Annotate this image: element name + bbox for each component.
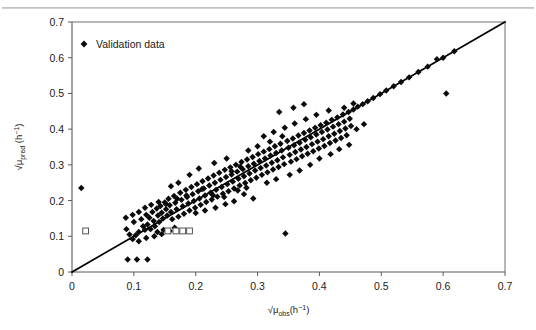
x-axis-title: √μobs(h−1) xyxy=(268,304,310,317)
data-point xyxy=(136,238,142,244)
data-point xyxy=(253,174,259,180)
data-point xyxy=(222,201,228,207)
data-point xyxy=(287,152,293,158)
data-point xyxy=(281,161,287,167)
data-point xyxy=(255,151,261,157)
data-point xyxy=(173,206,179,212)
data-point xyxy=(249,154,255,160)
data-point xyxy=(275,164,281,170)
data-point xyxy=(316,155,322,161)
data-point xyxy=(149,209,155,215)
data-point xyxy=(144,256,150,262)
data-point xyxy=(443,90,449,96)
data-point xyxy=(313,112,319,118)
data-point xyxy=(330,123,336,129)
data-point xyxy=(245,147,251,153)
data-point xyxy=(314,138,320,144)
x-tick-label: 0 xyxy=(69,280,75,292)
data-point xyxy=(243,184,249,190)
data-point xyxy=(250,195,256,201)
data-point xyxy=(310,148,316,154)
y-axis-title: √μpred (h−1) xyxy=(13,124,27,171)
data-point xyxy=(202,207,208,213)
data-point xyxy=(192,204,198,210)
data-point xyxy=(290,104,296,110)
data-point xyxy=(272,143,278,149)
data-point xyxy=(183,187,189,193)
data-point xyxy=(197,202,203,208)
x-tick-label: 0.3 xyxy=(250,280,265,292)
data-point xyxy=(262,155,268,161)
legend-label: Validation data xyxy=(96,38,165,50)
data-point xyxy=(124,256,130,262)
data-point xyxy=(169,216,175,222)
data-point xyxy=(264,169,270,175)
data-point xyxy=(261,133,267,139)
data-point xyxy=(238,159,244,165)
data-point xyxy=(257,165,263,171)
data-point xyxy=(206,182,212,188)
data-point xyxy=(304,151,310,157)
y-tick-label: 0 xyxy=(58,266,64,278)
data-point xyxy=(188,184,194,190)
data-point xyxy=(212,204,218,210)
data-point xyxy=(175,179,181,185)
data-point xyxy=(335,121,341,127)
data-point xyxy=(211,160,217,166)
data-point xyxy=(267,138,273,144)
data-point xyxy=(266,146,272,152)
data-point xyxy=(353,126,359,132)
data-point xyxy=(325,133,331,139)
data-point xyxy=(263,162,269,168)
data-point xyxy=(321,143,327,149)
data-point xyxy=(244,156,250,162)
data-point-open xyxy=(83,228,89,234)
data-point xyxy=(181,211,187,217)
data-point xyxy=(296,139,302,145)
data-point xyxy=(327,140,333,146)
data-point xyxy=(223,174,229,180)
data-point xyxy=(332,137,338,143)
data-point xyxy=(282,230,288,236)
data-point xyxy=(189,191,195,197)
data-point xyxy=(273,176,279,182)
data-point xyxy=(254,143,260,149)
data-point xyxy=(270,129,276,135)
data-point xyxy=(316,145,322,151)
data-point xyxy=(309,141,315,147)
data-point xyxy=(138,216,144,222)
x-tick-label: 0.1 xyxy=(127,280,142,292)
data-point xyxy=(336,146,342,152)
data-point xyxy=(216,169,222,175)
data-point xyxy=(303,116,309,122)
data-point xyxy=(196,165,202,171)
data-point xyxy=(131,219,137,225)
x-tick-label: 0.2 xyxy=(188,280,203,292)
data-point xyxy=(123,214,129,220)
data-point xyxy=(327,151,333,157)
data-point xyxy=(348,123,354,129)
data-point xyxy=(343,132,349,138)
y-tick-label: 0.4 xyxy=(49,123,64,135)
data-point-open xyxy=(165,228,171,234)
data-point xyxy=(230,178,236,184)
legend-marker-icon xyxy=(81,41,88,48)
data-point xyxy=(136,209,142,215)
y-tick-label: 0.7 xyxy=(49,16,64,28)
data-point xyxy=(346,142,352,148)
data-point xyxy=(186,207,192,213)
data-point xyxy=(143,235,149,241)
data-point xyxy=(298,146,304,152)
data-point xyxy=(290,135,296,141)
y-tick-label: 0.2 xyxy=(49,195,64,207)
y-tick-label: 0.1 xyxy=(49,230,64,242)
plot-canvas: 00.10.20.30.40.50.60.700.10.20.30.40.50.… xyxy=(0,0,536,330)
data-point xyxy=(264,179,270,185)
data-point xyxy=(225,188,231,194)
data-point xyxy=(324,126,330,132)
data-point xyxy=(223,155,229,161)
data-point xyxy=(337,128,343,134)
data-point xyxy=(175,213,181,219)
data-point xyxy=(274,157,280,163)
data-point xyxy=(168,183,174,189)
